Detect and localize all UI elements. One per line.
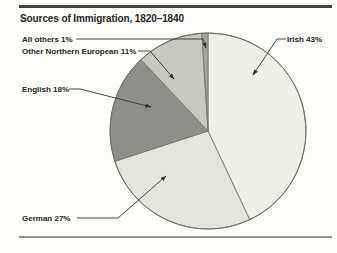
bottom-rule xyxy=(19,236,332,238)
label-irish: Irish 43% xyxy=(287,35,322,44)
label-other-northern-european: Other Northern European 11% xyxy=(22,47,136,56)
label-german: German 27% xyxy=(22,214,70,223)
figure-page: Sources of Immigration, 1820–1840 All ot… xyxy=(0,0,337,253)
label-english: English 18% xyxy=(22,85,69,94)
label-all-others: All others 1% xyxy=(22,35,73,44)
